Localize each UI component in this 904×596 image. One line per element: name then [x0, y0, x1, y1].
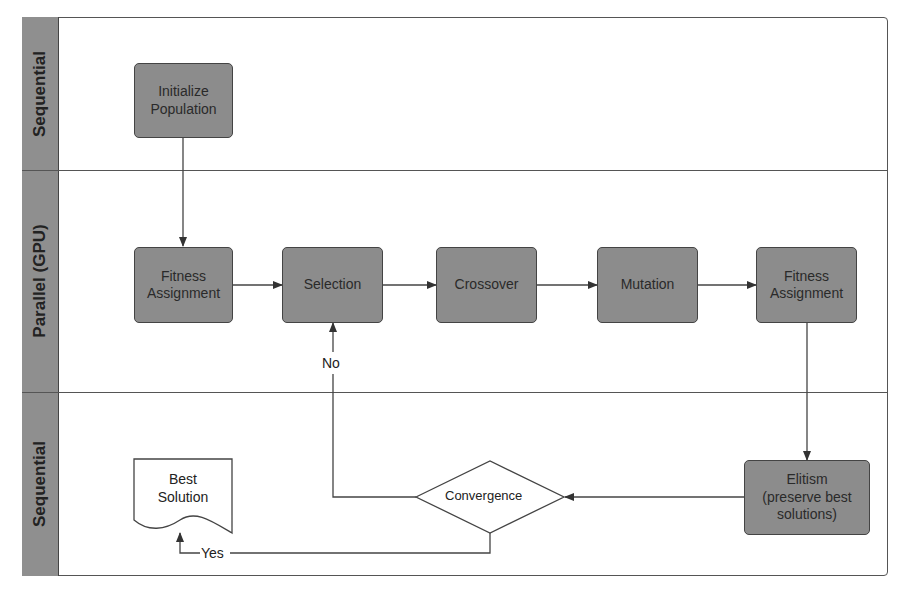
- fitness-assignment-node-2[interactable]: FitnessAssignment: [756, 247, 857, 323]
- node-label: Fitness: [147, 268, 220, 286]
- selection-node[interactable]: Selection: [282, 247, 383, 323]
- best-solution-label: Best Solution: [134, 470, 232, 506]
- mutation-node[interactable]: Mutation: [597, 247, 698, 323]
- edge-label-yes: Yes: [201, 545, 224, 561]
- fitness-assignment-node-1[interactable]: FitnessAssignment: [134, 247, 233, 323]
- node-label: Assignment: [147, 285, 220, 303]
- node-label: Initialize: [150, 83, 216, 101]
- node-label: Elitism: [762, 471, 851, 489]
- node-label: (preserve best: [762, 489, 851, 507]
- node-label: solutions): [762, 506, 851, 524]
- elitism-node[interactable]: Elitism(preserve bestsolutions): [744, 460, 870, 535]
- node-label: Fitness: [770, 268, 843, 286]
- node-label: Best: [134, 470, 232, 488]
- initialize-population-node[interactable]: InitializePopulation: [134, 63, 233, 138]
- node-label: Crossover: [455, 276, 519, 294]
- convergence-label: Convergence: [445, 488, 522, 503]
- node-label: Assignment: [770, 285, 843, 303]
- node-label: Selection: [304, 276, 362, 294]
- node-label: Solution: [134, 488, 232, 506]
- edge-label-no: No: [322, 355, 340, 371]
- node-label: Population: [150, 101, 216, 119]
- crossover-node[interactable]: Crossover: [436, 247, 537, 323]
- node-label: Mutation: [621, 276, 675, 294]
